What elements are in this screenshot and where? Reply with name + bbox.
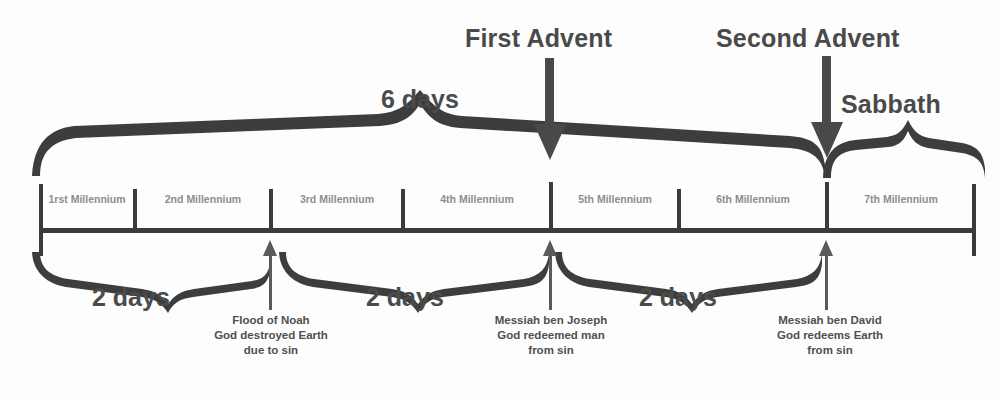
segment-label-millennium-6: 6th Millennium [713, 193, 793, 206]
note-line-1: Flood of Noah [181, 313, 361, 328]
second-advent-arrow [811, 56, 843, 158]
segment-label-millennium-5: 5th Millennium [575, 193, 655, 206]
messiah-ben-david-note: Messiah ben David God redeems Earth from… [740, 313, 920, 358]
segment-ordinal: 7th [864, 193, 880, 205]
segment-label-millennium-3: 3rd Millennium [297, 193, 377, 206]
note-line-1: Messiah ben David [740, 313, 920, 328]
segment-label-millennium-4: 4th Millennium [437, 193, 517, 206]
segment-label-millennium-1: 1rst Millennium [47, 193, 127, 206]
tick-4 [549, 182, 553, 233]
messiah-ben-david-arrow [819, 240, 833, 310]
first-advent-arrow [534, 58, 566, 160]
first-advent-label: First Advent [465, 24, 612, 53]
segment-ordinal: 1rst [48, 193, 67, 205]
segment-unit: Millennium [319, 193, 374, 205]
segment-unit: Millennium [597, 193, 652, 205]
segment-unit: Millennium [883, 193, 938, 205]
segment-ordinal: 6th [716, 193, 732, 205]
sabbath-brace [823, 120, 985, 178]
flood-of-noah-note: Flood of Noah God destroyed Earth due to… [181, 313, 361, 358]
segment-label-millennium-7: 7th Millennium [861, 193, 941, 206]
tick-6 [825, 182, 829, 233]
tick-7 [972, 184, 976, 256]
segment-ordinal: 3rd [300, 193, 316, 205]
note-line-2: God redeems Earth [740, 328, 920, 343]
note-line-3: from sin [740, 343, 920, 358]
tick-2 [269, 189, 273, 233]
note-line-1: Messiah ben Joseph [461, 313, 641, 328]
timeline-axis [40, 228, 975, 233]
segment-unit: Millennium [71, 193, 126, 205]
six-days-label: 6 days [381, 85, 459, 114]
second-advent-label: Second Advent [716, 24, 900, 53]
segment-unit: Millennium [735, 193, 790, 205]
note-line-2: God redeemed man [461, 328, 641, 343]
timeline-diagram: First Advent Second Advent Sabbath 6 day… [0, 0, 999, 401]
segment-ordinal: 5th [578, 193, 594, 205]
segment-unit: Millennium [459, 193, 514, 205]
two-days-label-2: 2 days [366, 283, 444, 312]
segment-unit: Millennium [186, 193, 241, 205]
note-line-3: from sin [461, 343, 641, 358]
tick-1 [133, 189, 137, 233]
sabbath-label: Sabbath [841, 90, 941, 119]
segment-label-millennium-2: 2nd Millennium [163, 193, 243, 206]
note-line-2: God destroyed Earth [181, 328, 361, 343]
two-days-label-1: 2 days [92, 283, 170, 312]
tick-5 [677, 189, 681, 233]
note-line-3: due to sin [181, 343, 361, 358]
flood-of-noah-arrow [263, 240, 277, 310]
tick-3 [401, 189, 405, 233]
two-days-label-3: 2 days [639, 283, 717, 312]
messiah-ben-joseph-note: Messiah ben Joseph God redeemed man from… [461, 313, 641, 358]
tick-0 [39, 184, 43, 256]
segment-ordinal: 4th [440, 193, 456, 205]
segment-ordinal: 2nd [165, 193, 184, 205]
